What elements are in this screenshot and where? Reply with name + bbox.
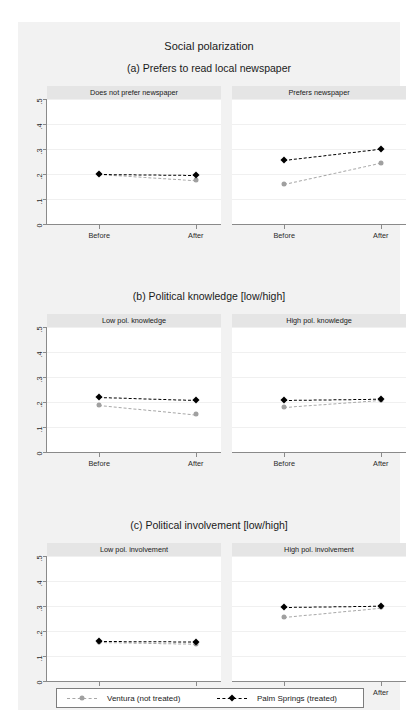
y-axis-tick-label: 0 (35, 681, 44, 699)
x-axis-tick (284, 682, 285, 686)
panel-header-b-0: Low pol. knowledge (47, 314, 221, 327)
gridline (47, 352, 221, 353)
data-point-marker (378, 160, 383, 165)
data-point-marker (282, 614, 287, 619)
data-point-marker (97, 402, 102, 407)
gridline (47, 327, 221, 328)
legend-marker-circle (80, 696, 85, 701)
legend-marker-diamond (228, 694, 235, 701)
x-axis-tick-label: Before (74, 459, 124, 468)
gridline (47, 556, 221, 557)
y-axis-tick-label: .4 (35, 581, 44, 599)
gridline (47, 631, 221, 632)
gridline (232, 327, 406, 328)
panel-header-b-1: High pol. knowledge (232, 314, 406, 327)
y-axis-tick-label: .1 (35, 427, 44, 445)
x-axis-tick (381, 225, 382, 229)
x-axis-tick (196, 453, 197, 457)
gridline (47, 199, 221, 200)
x-axis-tick (381, 682, 382, 686)
gridline (47, 656, 221, 657)
y-axis-tick-label: .5 (35, 556, 44, 574)
gridline (232, 174, 406, 175)
gridline (232, 99, 406, 100)
chart-title: Social polarization (18, 40, 400, 52)
x-axis-tick-label: After (356, 459, 406, 468)
plot-area-b-0 (47, 327, 221, 452)
y-axis-tick-label: 0 (35, 452, 44, 470)
gridline (47, 581, 221, 582)
x-axis-tick (99, 453, 100, 457)
gridline (232, 124, 406, 125)
gridline (232, 581, 406, 582)
legend-item-1[interactable]: Palm Springs (treated) (217, 689, 362, 707)
gridline (47, 124, 221, 125)
x-axis-tick (196, 682, 197, 686)
x-axis-tick (284, 225, 285, 229)
gridline (232, 631, 406, 632)
x-axis-tick-label: Before (259, 459, 309, 468)
x-axis-tick (99, 682, 100, 686)
y-axis-tick-label: 0 (35, 224, 44, 242)
x-axis-tick-label: After (171, 231, 221, 240)
gridline (47, 149, 221, 150)
gridline (232, 656, 406, 657)
y-axis-tick-label: .2 (35, 402, 44, 420)
x-axis-tick (381, 453, 382, 457)
x-axis-tick-label: Before (74, 231, 124, 240)
section-title-c: (c) Political involvement [low/high] (18, 519, 400, 531)
gridline (47, 99, 221, 100)
panel-header-c-1: High pol. involvement (232, 543, 406, 556)
y-axis-tick-label: .5 (35, 327, 44, 345)
gridline (47, 377, 221, 378)
legend-label: Palm Springs (treated) (257, 694, 337, 703)
panel-header-c-0: Low pol. involvement (47, 543, 221, 556)
plot-area-b-1 (232, 327, 406, 452)
y-axis-tick-label: .3 (35, 377, 44, 395)
chart-legend: Ventura (not treated)Palm Springs (treat… (56, 688, 364, 708)
gridline (47, 606, 221, 607)
gridline (232, 556, 406, 557)
gridline (232, 377, 406, 378)
y-axis-tick-label: .1 (35, 199, 44, 217)
y-axis-tick-label: .3 (35, 149, 44, 167)
y-axis-tick-label: .4 (35, 352, 44, 370)
plot-area-a-0 (47, 99, 221, 224)
x-axis-tick (99, 225, 100, 229)
plot-area-c-1 (232, 556, 406, 681)
data-point-marker (282, 405, 287, 410)
x-axis-tick (284, 453, 285, 457)
y-axis-tick-label: .1 (35, 656, 44, 674)
gridline (232, 427, 406, 428)
x-axis-tick-label: After (356, 231, 406, 240)
x-axis-tick (196, 225, 197, 229)
panel-header-a-0: Does not prefer newspaper (47, 86, 221, 99)
panel-header-a-1: Prefers newspaper (232, 86, 406, 99)
y-axis-tick-label: .3 (35, 606, 44, 624)
gridline (232, 352, 406, 353)
legend-item-0[interactable]: Ventura (not treated) (67, 689, 212, 707)
y-axis-tick-label: .4 (35, 124, 44, 142)
data-point-marker (193, 412, 198, 417)
data-point-marker (282, 182, 287, 187)
y-axis-tick-label: .2 (35, 174, 44, 192)
legend-label: Ventura (not treated) (107, 694, 180, 703)
gridline (47, 427, 221, 428)
x-axis-tick-label: After (171, 459, 221, 468)
y-axis-tick-label: .2 (35, 631, 44, 649)
gridline (232, 199, 406, 200)
x-axis-tick-label: Before (259, 231, 309, 240)
section-title-b: (b) Political knowledge [low/high] (18, 290, 400, 302)
plot-area-c-0 (47, 556, 221, 681)
section-title-a: (a) Prefers to read local newspaper (18, 62, 400, 74)
y-axis-tick-label: .5 (35, 99, 44, 117)
